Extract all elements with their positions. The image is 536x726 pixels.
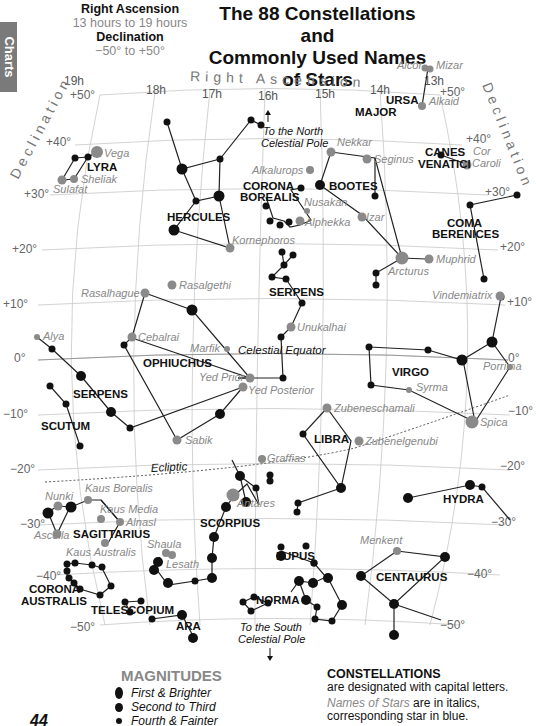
constellation-label: CANES [425, 146, 466, 158]
constellation-label: BOOTES [329, 180, 378, 192]
star-label: Shaula [147, 538, 181, 550]
dec-tick: −50° [440, 618, 465, 632]
dec-tick: +40° [46, 135, 71, 149]
star-label: Marfik [190, 342, 220, 354]
dec-tick: +20° [500, 240, 525, 254]
star-label: Porrima [483, 360, 522, 372]
star-label: Kaus Media [100, 503, 158, 515]
north-pole-note: Celestial Pole [261, 137, 328, 149]
dec-tick: +40° [466, 132, 491, 146]
star-label: Muphrid [436, 253, 477, 265]
dec-tick: −40° [36, 569, 61, 583]
dec-tick: −10° [508, 404, 533, 418]
dec-tick: −20° [500, 459, 525, 473]
star-label: Kaus Borealis [85, 482, 153, 494]
star-second-magnitude-icon [115, 703, 123, 712]
star-label: Rasalgethi [179, 279, 232, 291]
constellation-label: OPHIUCHUS [143, 357, 212, 369]
ra-tick: 17h [202, 87, 222, 101]
ecliptic-line [45, 395, 510, 482]
star-label: Mizar [436, 59, 464, 71]
constellation-label: URSA [386, 94, 419, 106]
constellation-label: ARA [176, 620, 201, 632]
star-label: Yed Posterior [248, 384, 315, 396]
star-label: Sulafat [53, 183, 88, 195]
dec-tick: +50° [70, 88, 95, 102]
star-label: Sabik [185, 434, 213, 446]
star-label: Syrma [416, 381, 448, 393]
star-label: Zubenelgenubi [364, 435, 438, 447]
constellation-label: VIRGO [392, 366, 429, 378]
constellation-label: LUPUS [276, 550, 315, 562]
star-label: Lesath [166, 558, 199, 570]
magnitude-label: Fourth & Fainter [131, 714, 218, 726]
star-label: Unukalhai [297, 321, 346, 333]
star-label: Arcturus [387, 265, 429, 277]
star-label: Nusakan [304, 196, 347, 208]
dec-tick: −10° [3, 407, 28, 421]
magnitude-label: First & Brighter [131, 686, 211, 700]
star-label: Cor [473, 145, 492, 157]
ecliptic-label: Ecliptic [150, 460, 187, 474]
star-first-magnitude-icon [115, 687, 123, 699]
dec-tick: +30° [24, 187, 49, 201]
stars-legend-italic: Names of Stars [327, 696, 410, 710]
dec-tick: 0° [14, 351, 26, 365]
star-label: Antares [236, 497, 275, 509]
star-label: Spica [480, 416, 508, 428]
stars-legend-text: are in italics, [410, 696, 480, 710]
dec-axis-label-left: Declination [7, 74, 74, 182]
star-label: Graffias [267, 452, 306, 464]
dec-tick: +20° [12, 242, 37, 256]
magnitudes-title: MAGNITUDES [121, 667, 222, 684]
star-fourth-magnitude-icon [116, 718, 122, 724]
constellation-label: SAGITTARIUS [73, 528, 150, 540]
constellation-label: HERCULES [167, 211, 231, 223]
star-label: Cebalrai [138, 331, 180, 343]
star-label: Ascella [33, 529, 69, 541]
south-pole-note: To the South [240, 621, 302, 633]
magnitude-row: First & Brighter [115, 686, 222, 700]
magnitudes-legend: MAGNITUDES First & Brighter Second to Th… [115, 667, 222, 726]
star-label: Nunki [45, 490, 74, 502]
constellation-label: CORONA [29, 583, 80, 595]
star-label: Alnasl [125, 516, 157, 528]
dec-tick: −40° [467, 567, 492, 581]
star-label: Alya [42, 330, 64, 342]
magnitude-label: Second to Third [131, 700, 216, 714]
constellation-label: MAJOR [355, 106, 397, 118]
star-label: Menkent [360, 534, 403, 546]
south-pole-note: Celestial Pole [238, 633, 305, 645]
stars-legend-text-2: corresponding star in blue. [327, 710, 508, 723]
star-label: Alkaid [428, 95, 460, 107]
constellations-legend: CONSTELLATIONS are designated with capit… [327, 668, 508, 723]
star-label: Yed Prior [199, 371, 246, 383]
star-label: Kaus Australis [66, 546, 136, 558]
star-label: Alphekka [304, 216, 350, 228]
celestial-equator-label: Celestial Equator [238, 344, 327, 356]
dec-tick: −30° [491, 515, 516, 529]
star-label: Alkalurops [251, 164, 304, 176]
star-label: Kornephoros [232, 234, 295, 246]
magnitude-row: Fourth & Fainter [115, 714, 222, 726]
constellation-label: BOREALIS [240, 191, 300, 203]
star-label: Nekkar [337, 136, 373, 148]
star-label: Rasalhague [81, 287, 140, 299]
ra-tick: 16h [258, 89, 278, 103]
star-label: Vega [104, 147, 129, 159]
ra-tick: 18h [146, 83, 166, 97]
constellation-label: SCUTUM [41, 420, 90, 432]
star-label: Zubeneschamali [333, 402, 415, 414]
north-pole-note: To the North [263, 125, 323, 137]
constellation-label: SERPENS [73, 388, 128, 400]
star-label: Alcor [396, 59, 423, 71]
constellation-label: CENTAURUS [376, 571, 448, 583]
constellations-legend-text: are designated with capital letters. [327, 681, 508, 694]
dec-tick: −50° [70, 620, 95, 634]
star-label: Seginus [374, 153, 414, 165]
constellation-label: AUSTRALIS [21, 595, 87, 607]
constellation-label: NORMA [256, 594, 299, 606]
constellation-label: LIBRA [314, 433, 349, 445]
constellation-label: TELESCOPIUM [91, 604, 174, 616]
constellation-label: SERPENS [269, 286, 324, 298]
